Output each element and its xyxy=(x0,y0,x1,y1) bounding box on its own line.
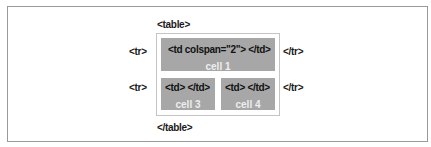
cell-3: <td> </td> cell 3 xyxy=(161,78,215,110)
table-close-tag: </table> xyxy=(157,122,192,134)
cell-1-code: <td colspan="2"> </td> xyxy=(168,44,271,56)
cell-4-code: <td> </td> xyxy=(225,82,270,94)
table-open-tag: <table> xyxy=(157,19,190,31)
row2-open-tag: <tr> xyxy=(129,82,147,94)
cell-1-label: cell 1 xyxy=(161,61,275,73)
cell-3-label: cell 3 xyxy=(161,99,215,111)
cell-1: <td colspan="2"> </td> cell 1 xyxy=(161,38,275,71)
cell-4: <td> </td> cell 4 xyxy=(221,78,275,110)
row1-close-tag: </tr> xyxy=(283,46,303,58)
row1-open-tag: <tr> xyxy=(129,46,147,58)
cell-4-label: cell 4 xyxy=(221,99,275,111)
row2-close-tag: </tr> xyxy=(283,82,303,94)
cell-3-code: <td> </td> xyxy=(165,82,210,94)
